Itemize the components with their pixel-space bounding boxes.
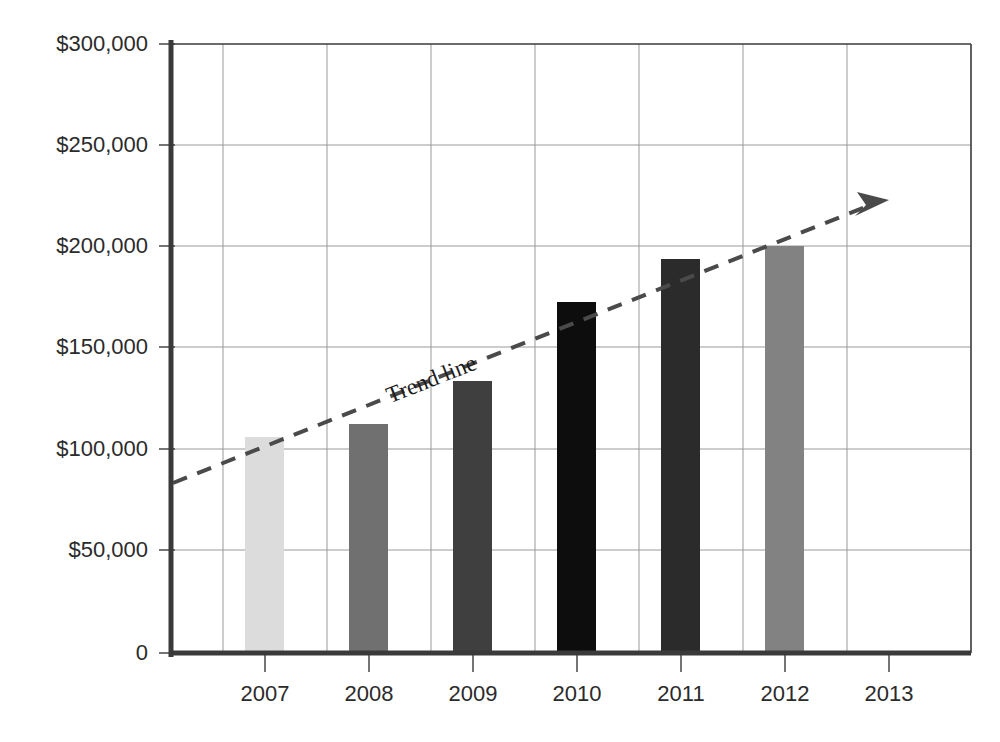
x-tick-label-2012: 2012 [761, 681, 810, 706]
y-tick-label-150000: $150,000 [56, 334, 148, 359]
y-tick-label-0: 0 [136, 640, 148, 665]
bar-2012 [765, 246, 804, 653]
y-tick-label-50000: $50,000 [68, 537, 148, 562]
bar-2008 [349, 424, 388, 653]
bar-2011 [661, 259, 700, 653]
x-tick-label-2007: 2007 [241, 681, 290, 706]
bar-chart-figure: Trend line $300,000 $250,000 $200,000 $1… [0, 0, 1000, 742]
x-tick-label-2008: 2008 [345, 681, 394, 706]
y-tick-label-200000: $200,000 [56, 233, 148, 258]
x-tick-label-2009: 2009 [449, 681, 498, 706]
bar-2007 [245, 437, 284, 653]
x-tick-label-2011: 2011 [657, 681, 704, 706]
x-tick-label-2013: 2013 [865, 681, 914, 706]
chart-canvas: Trend line $300,000 $250,000 $200,000 $1… [0, 0, 1000, 742]
y-tick-label-250000: $250,000 [56, 132, 148, 157]
y-tick-label-100000: $100,000 [56, 436, 148, 461]
x-tick-label-2010: 2010 [553, 681, 602, 706]
y-tick-label-300000: $300,000 [56, 31, 148, 56]
bar-2009 [453, 381, 492, 653]
chart-background [0, 0, 1000, 742]
bar-2010 [557, 302, 596, 653]
